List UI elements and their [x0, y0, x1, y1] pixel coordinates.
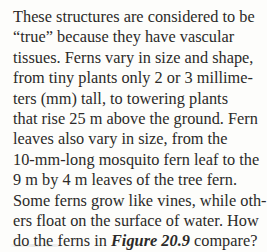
- text-line-8: 10-mm-long mosquito fern leaf to the: [13, 150, 253, 170]
- text-line-12: do the ferns in Figure 20.9 compare?: [13, 231, 253, 251]
- text-line-11: ers float on the surface of water. How: [13, 211, 253, 231]
- text-line-1: These structures are considered to be: [13, 7, 253, 27]
- text-line-10: Some ferns grow like vines, while oth-: [13, 191, 253, 211]
- text-line-2: “true” because they have vascular: [13, 27, 253, 47]
- text-line-3: tissues. Ferns vary in size and shape,: [13, 48, 253, 68]
- text-line-4: from tiny plants only 2 or 3 millime-: [13, 68, 253, 88]
- last-line-prefix: do the ferns in: [13, 231, 111, 250]
- text-line-7: leaves also vary in size, from the: [13, 129, 253, 149]
- text-line-5: ters (mm) tall, to towering plants: [13, 89, 253, 109]
- body-paragraph: These structures are considered to be “t…: [13, 7, 253, 252]
- text-line-9: 9 m by 4 m leaves of the tree fern.: [13, 170, 253, 190]
- last-line-suffix: compare?: [190, 231, 258, 250]
- text-line-6: that rise 25 m above the ground. Fern: [13, 109, 253, 129]
- figure-reference: Figure 20.9: [111, 231, 190, 250]
